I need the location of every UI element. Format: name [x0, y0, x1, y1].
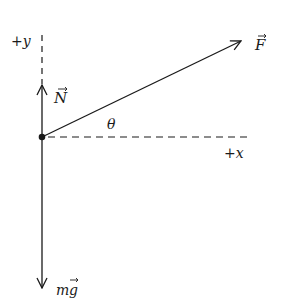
applied-force-arrow [42, 41, 241, 137]
force-F-label: F [254, 36, 266, 54]
force-N-label: N [53, 89, 68, 107]
free-body-diagram: +y +x F N θ m g [0, 0, 284, 305]
x-axis-label: +x [224, 145, 244, 161]
object-point [39, 134, 46, 141]
weight-g-label: g [69, 282, 78, 298]
weight-m-label: m [56, 282, 69, 298]
y-axis-label: +y [11, 33, 32, 49]
theta-label: θ [107, 116, 116, 132]
